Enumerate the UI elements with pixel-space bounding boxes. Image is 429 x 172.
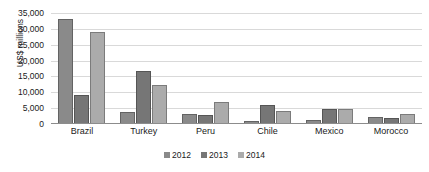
bar[interactable] — [152, 85, 167, 124]
y-axis-tick-label: 15,000 — [18, 71, 44, 81]
x-axis-line — [51, 123, 422, 124]
legend-item[interactable]: 2012 — [164, 150, 191, 160]
legend-label: 2013 — [209, 150, 228, 160]
bar-group — [175, 13, 237, 124]
y-axis-tick-label: 5,000 — [23, 103, 44, 113]
y-axis-tick-label: 25,000 — [18, 40, 44, 50]
bar-group — [113, 13, 175, 124]
bar-group — [298, 13, 360, 124]
bar[interactable] — [322, 109, 337, 124]
legend-label: 2014 — [246, 150, 265, 160]
x-axis-category-label: Chile — [236, 126, 298, 140]
x-axis-category-label: Peru — [175, 126, 237, 140]
bar[interactable] — [214, 102, 229, 124]
bar[interactable] — [136, 71, 151, 124]
y-axis-tick-labels: 35,00030,00025,00020,00015,00010,0005,00… — [0, 13, 47, 124]
y-axis-tick-label: 35,000 — [18, 8, 44, 18]
legend-swatch-icon — [164, 152, 170, 158]
chart-legend: 201220132014 — [0, 148, 429, 162]
x-axis-category-labels: BrazilTurkeyPeruChileMexicoMorocco — [51, 126, 422, 140]
bar-group — [51, 13, 113, 124]
legend-swatch-icon — [238, 152, 244, 158]
bar[interactable] — [90, 32, 105, 124]
y-axis-tick-label: 0 — [39, 119, 44, 129]
x-axis-category-label: Turkey — [113, 126, 175, 140]
bar[interactable] — [338, 109, 353, 124]
legend-swatch-icon — [201, 152, 207, 158]
y-axis-tick-label: 10,000 — [18, 87, 44, 97]
bar[interactable] — [58, 19, 73, 124]
x-axis-category-label: Morocco — [360, 126, 422, 140]
bar-chart: US$ millions 35,00030,00025,00020,00015,… — [0, 0, 429, 172]
bar[interactable] — [260, 105, 275, 124]
y-axis-tick-label: 20,000 — [18, 56, 44, 66]
x-axis-category-label: Mexico — [298, 126, 360, 140]
legend-item[interactable]: 2013 — [201, 150, 228, 160]
plot-area — [51, 13, 422, 124]
bar-group — [360, 13, 422, 124]
bar-groups — [51, 13, 422, 124]
legend-label: 2012 — [172, 150, 191, 160]
y-axis-tick-label: 30,000 — [18, 24, 44, 34]
bar-group — [236, 13, 298, 124]
bar[interactable] — [74, 95, 89, 124]
legend-item[interactable]: 2014 — [238, 150, 265, 160]
x-axis-category-label: Brazil — [51, 126, 113, 140]
